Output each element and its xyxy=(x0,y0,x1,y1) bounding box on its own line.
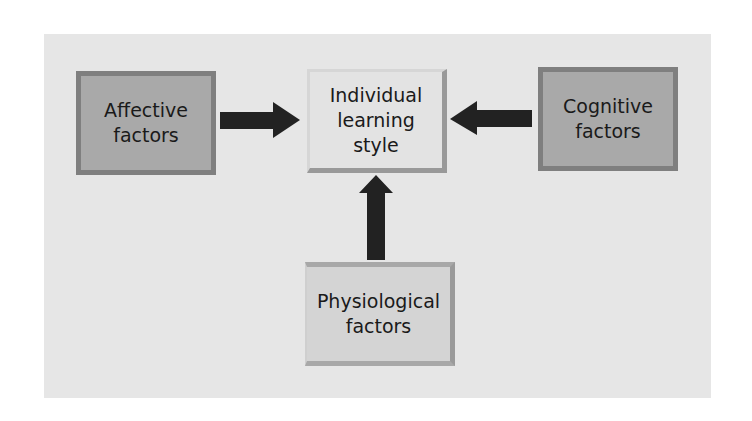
individual-learning-style-box: Individual learning style xyxy=(307,69,447,173)
cognitive-factors-label: Cognitive factors xyxy=(563,94,653,144)
arrow-right-icon xyxy=(220,102,302,138)
arrow-left-icon xyxy=(450,101,532,137)
cognitive-factors-box: Cognitive factors xyxy=(538,67,678,171)
affective-factors-box: Affective factors xyxy=(76,71,216,175)
arrow-up-icon xyxy=(359,175,393,260)
physiological-factors-box: Physiological factors xyxy=(305,262,455,366)
physiological-factors-label: Physiological factors xyxy=(317,289,440,339)
individual-learning-style-label: Individual learning style xyxy=(330,83,423,158)
affective-factors-label: Affective factors xyxy=(104,98,188,148)
